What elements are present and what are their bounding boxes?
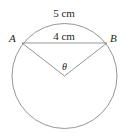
radius-b (65, 43, 108, 76)
radius-a (22, 43, 65, 76)
circle-diagram: 5 cm 4 cm A B θ (0, 0, 125, 136)
point-b-label: B (110, 32, 117, 44)
chord-length-label: 4 cm (53, 30, 75, 42)
point-a-label: A (8, 32, 16, 44)
angle-theta-label: θ (62, 61, 67, 72)
arc-length-label: 5 cm (53, 7, 75, 19)
